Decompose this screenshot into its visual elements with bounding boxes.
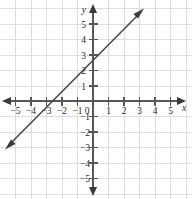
x-axis-label: x	[181, 103, 187, 113]
x-tick-label: −5	[10, 106, 20, 116]
x-tick-label: −3	[41, 106, 51, 116]
y-tick-label: 5	[81, 20, 86, 30]
coordinate-plane-figure: −5 −4 −3 −2 −1 0 1 2 3 4 5 5 4 3 2 1 −1 …	[0, 0, 192, 199]
y-tick-label: −5	[80, 174, 90, 184]
x-tick-label: −2	[57, 106, 67, 116]
y-tick-label: −3	[80, 143, 90, 153]
graph-canvas: −5 −4 −3 −2 −1 0 1 2 3 4 5 5 4 3 2 1 −1 …	[0, 0, 192, 199]
x-tick-label: 2	[122, 106, 127, 116]
x-tick-label: 4	[153, 106, 158, 116]
chart-background	[0, 0, 192, 199]
y-tick-label: 4	[81, 35, 86, 45]
y-tick-label: 3	[81, 51, 86, 61]
y-tick-label: −4	[80, 159, 90, 169]
x-tick-label: 3	[137, 106, 142, 116]
x-tick-label: 5	[168, 106, 173, 116]
y-tick-label: −2	[80, 128, 90, 138]
y-tick-label: −1	[80, 112, 90, 122]
x-tick-label: 1	[106, 106, 111, 116]
y-axis-label: y	[81, 5, 87, 15]
x-tick-label: −4	[26, 106, 36, 116]
y-tick-label: 1	[81, 82, 86, 92]
y-tick-label: 2	[81, 66, 86, 76]
